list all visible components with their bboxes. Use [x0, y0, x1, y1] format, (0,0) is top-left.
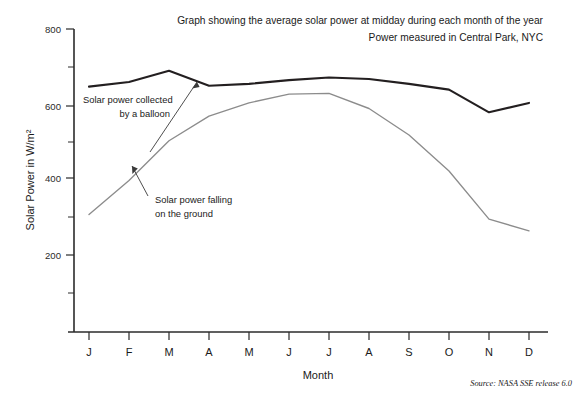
y-axis-ticks [66, 29, 74, 293]
x-tick-label-may: M [244, 346, 253, 358]
ground-annotation-line2: on the ground [155, 208, 213, 219]
y-tick-label-800: 800 [45, 24, 61, 35]
x-axis-title: Month [303, 369, 334, 381]
ground-annotation-line1: Solar power falling [155, 194, 232, 205]
x-tick-label-feb: F [126, 346, 133, 358]
y-tick-label-200: 200 [45, 250, 61, 261]
series-line-balloon [89, 71, 529, 113]
y-tick-label-400: 400 [45, 173, 61, 184]
x-tick-label-jul: J [326, 346, 332, 358]
source-credit: Source: NASA SSE release 6.0 [470, 379, 573, 388]
chart-subtitle: Power measured in Central Park, NYC [369, 32, 543, 43]
x-tick-label-jan: J [86, 346, 92, 358]
balloon-annotation: Solar power collected by a balloon [83, 82, 200, 152]
x-tick-label-apr: A [205, 346, 213, 358]
x-tick-label-jun: J [286, 346, 292, 358]
x-tick-label-sep: S [405, 346, 412, 358]
balloon-annotation-line1: Solar power collected [83, 94, 173, 105]
y-tick-label-600: 600 [45, 101, 61, 112]
ground-annotation: Solar power falling on the ground [132, 166, 232, 219]
chart-page: Graph showing the average solar power at… [0, 0, 588, 399]
balloon-annotation-line2: by a balloon [119, 108, 170, 119]
x-tick-label-mar: M [164, 346, 173, 358]
x-tick-label-dec: D [525, 346, 533, 358]
x-axis-ticks [89, 332, 529, 340]
x-tick-label-aug: A [365, 346, 373, 358]
y-axis-title: Solar Power in W/m² [24, 129, 36, 230]
x-tick-label-nov: N [485, 346, 493, 358]
x-tick-label-oct: O [445, 346, 454, 358]
solar-power-line-chart: Graph showing the average solar power at… [0, 0, 588, 399]
chart-title: Graph showing the average solar power at… [177, 15, 543, 26]
